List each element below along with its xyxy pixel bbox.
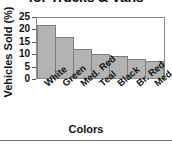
- chart-title: for Trucks & Vans: [0, 0, 172, 5]
- y-tick-mark: [32, 67, 36, 68]
- x-axis-tick-labels: WhiteGreenMed. RedTealBlackBr. RedMed. B…: [36, 80, 165, 120]
- y-tick-mark: [32, 42, 36, 43]
- x-axis-title: Colors: [0, 123, 172, 135]
- y-tick-label: 5: [8, 63, 30, 71]
- y-tick-label: 20: [8, 25, 30, 33]
- y-tick-mark: [32, 29, 36, 30]
- y-tick-mark: [32, 79, 36, 80]
- bottom-divider: [0, 140, 172, 141]
- bar-chart-figure: for Trucks & Vans Vehicles Sold (%) 2520…: [0, 0, 172, 149]
- y-tick-label: 15: [8, 38, 30, 46]
- y-axis-tick-labels: 2520151050: [8, 17, 30, 79]
- y-tick-label: 25: [8, 13, 30, 21]
- y-tick-mark: [32, 54, 36, 55]
- y-tick-label: 10: [8, 50, 30, 58]
- y-tick-label: 0: [8, 75, 30, 83]
- y-tick-mark: [32, 17, 36, 18]
